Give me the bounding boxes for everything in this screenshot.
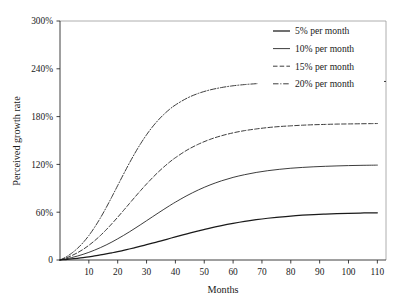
y-tick-label: 240%	[31, 64, 53, 74]
y-tick-label: 0	[48, 255, 53, 265]
chart-canvas: 060%120%180%240%300% 1020304050607080901…	[0, 0, 409, 305]
x-tick-label: 80	[286, 267, 296, 277]
series-line	[60, 81, 377, 260]
y-axis-title: Perceived growth rate	[11, 96, 22, 186]
x-tick-label: 100	[341, 267, 355, 277]
y-tick-label-group: 060%120%180%240%300%	[31, 16, 53, 265]
chart-figure: 060%120%180%240%300% 1020304050607080901…	[0, 0, 409, 305]
series-line	[60, 165, 377, 260]
legend-label: 5% per month	[295, 25, 350, 36]
x-tick-group	[89, 260, 377, 264]
x-tick-label: 40	[171, 267, 181, 277]
series-group	[60, 81, 377, 260]
x-tick-label: 70	[257, 267, 267, 277]
legend-label: 15% per month	[295, 61, 354, 72]
chart-legend: 5% per month10% per month15% per month20…	[258, 22, 386, 98]
x-axis-title: Months	[207, 284, 238, 295]
x-tick-label: 50	[200, 267, 210, 277]
x-tick-label: 110	[370, 267, 384, 277]
x-tick-label: 90	[315, 267, 325, 277]
series-line	[60, 213, 377, 260]
x-tick-label: 30	[142, 267, 152, 277]
y-tick-label: 120%	[31, 160, 53, 170]
legend-label: 10% per month	[295, 43, 354, 54]
legend-label: 20% per month	[295, 78, 354, 89]
y-tick-label: 300%	[31, 16, 53, 26]
y-tick-label: 60%	[36, 208, 53, 218]
x-tick-label: 60	[228, 267, 238, 277]
x-tick-label: 20	[113, 267, 123, 277]
x-tick-label: 10	[84, 267, 94, 277]
x-tick-label-group: 102030405060708090100110	[84, 267, 384, 277]
y-tick-group	[57, 21, 61, 260]
series-line	[60, 124, 377, 260]
y-tick-label: 180%	[31, 112, 53, 122]
